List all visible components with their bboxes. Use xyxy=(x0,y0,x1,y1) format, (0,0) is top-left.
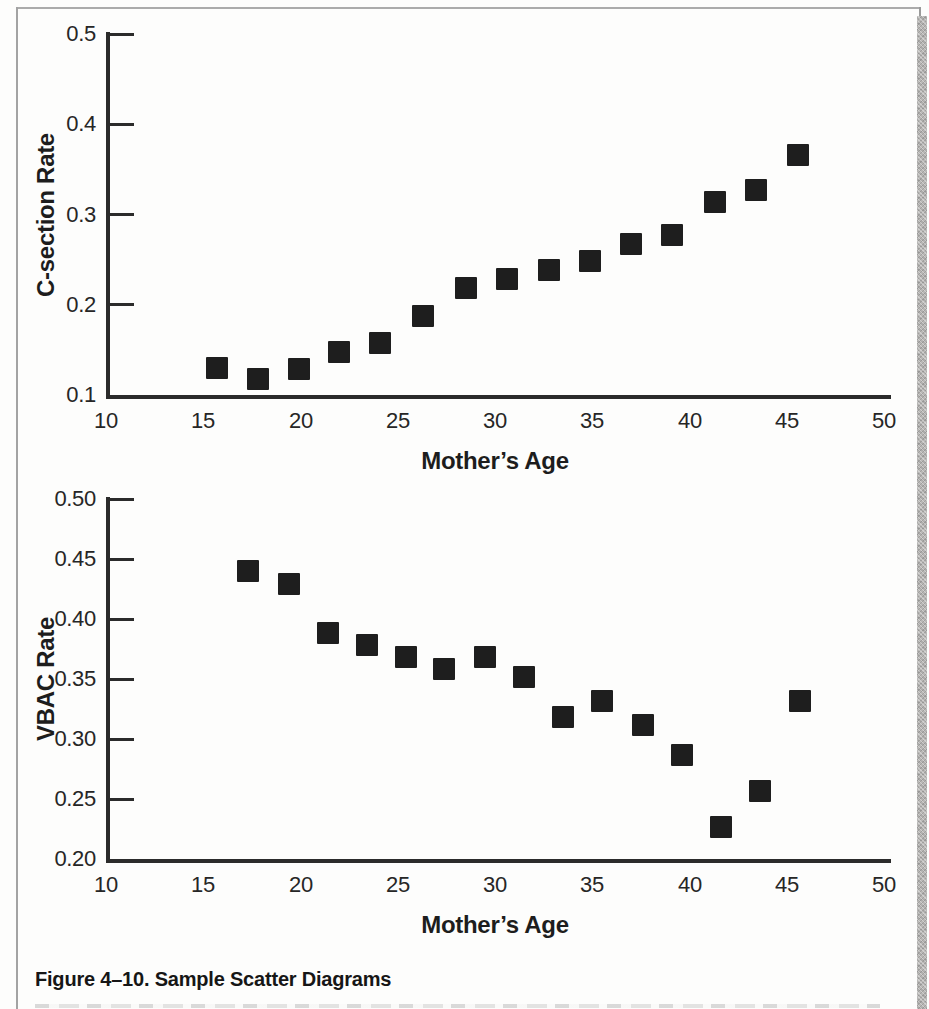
csection-chart-x-tick-label: 45 xyxy=(757,408,817,434)
vbac-chart-data-point xyxy=(395,646,417,668)
csection-chart-y-tick xyxy=(106,303,134,306)
vbac-chart-x-tick-label: 20 xyxy=(271,872,331,898)
vbac-chart-x-tick-label: 40 xyxy=(660,872,720,898)
csection-chart-x-tick-label: 20 xyxy=(271,408,331,434)
vbac-chart-y-tick xyxy=(106,738,134,741)
csection-chart-x-tick-label: 10 xyxy=(76,408,136,434)
vbac-chart-x-tick-label: 30 xyxy=(465,872,525,898)
csection-chart-x-axis xyxy=(106,395,891,399)
vbac-chart-y-tick xyxy=(106,558,134,561)
csection-chart-data-point xyxy=(661,224,683,246)
vbac-chart-data-point xyxy=(237,560,259,582)
vbac-chart-y-axis-title: VBAC Rate xyxy=(31,499,61,859)
csection-chart-data-point xyxy=(288,358,310,380)
vbac-chart-y-tick xyxy=(106,678,134,681)
csection-chart-data-point xyxy=(206,357,228,379)
csection-chart-y-tick xyxy=(106,123,134,126)
vbac-chart-x-axis xyxy=(106,859,891,863)
figure-scatter-diagrams: 0.50.40.30.20.1101520253035404550Mother’… xyxy=(0,0,929,1009)
vbac-chart-x-tick-label: 10 xyxy=(76,872,136,898)
vbac-chart-data-point xyxy=(591,690,613,712)
csection-chart-data-point xyxy=(247,368,269,390)
vbac-chart-data-point xyxy=(513,666,535,688)
vbac-chart-data-point xyxy=(278,573,300,595)
csection-chart-x-tick-label: 35 xyxy=(562,408,622,434)
csection-chart-x-tick-label: 50 xyxy=(854,408,914,434)
csection-chart-data-point xyxy=(328,341,350,363)
vbac-chart-data-point xyxy=(356,634,378,656)
csection-chart-data-point xyxy=(787,144,809,166)
csection-chart-data-point xyxy=(620,233,642,255)
vbac-chart-data-point xyxy=(749,780,771,802)
csection-chart-x-tick-label: 30 xyxy=(465,408,525,434)
csection-chart-data-point xyxy=(579,250,601,272)
vbac-chart-x-tick-label: 45 xyxy=(757,872,817,898)
csection-chart-y-tick xyxy=(106,213,134,216)
vbac-chart-y-tick xyxy=(106,498,134,501)
vbac-chart-y-tick xyxy=(106,618,134,621)
vbac-chart-x-tick-label: 15 xyxy=(173,872,233,898)
csection-chart-y-axis-title: C-section Rate xyxy=(31,35,61,395)
vbac-chart-data-point xyxy=(632,714,654,736)
csection-chart-data-point xyxy=(538,259,560,281)
vbac-chart-data-point xyxy=(552,706,574,728)
cutoff-text-remnant xyxy=(35,1004,880,1008)
csection-chart-x-axis-title: Mother’s Age xyxy=(345,446,645,476)
vbac-chart-data-point xyxy=(671,744,693,766)
vbac-chart-data-point xyxy=(433,658,455,680)
csection-chart-x-tick-label: 15 xyxy=(173,408,233,434)
vbac-chart-y-tick xyxy=(106,798,134,801)
csection-chart-data-point xyxy=(745,179,767,201)
csection-chart-data-point xyxy=(496,268,518,290)
vbac-chart-data-point xyxy=(474,646,496,668)
vbac-chart-x-axis-title: Mother’s Age xyxy=(345,910,645,940)
csection-chart-data-point xyxy=(455,277,477,299)
csection-chart-x-tick-label: 40 xyxy=(660,408,720,434)
vbac-chart-data-point xyxy=(710,816,732,838)
csection-chart-data-point xyxy=(412,305,434,327)
csection-chart-data-point xyxy=(704,191,726,213)
figure-caption: Figure 4–10. Sample Scatter Diagrams xyxy=(35,966,895,992)
vbac-chart-data-point xyxy=(317,622,339,644)
vbac-chart-data-point xyxy=(789,690,811,712)
csection-chart-y-tick xyxy=(106,33,134,36)
vbac-chart-x-tick-label: 35 xyxy=(562,872,622,898)
csection-chart-data-point xyxy=(369,332,391,354)
vbac-chart-x-tick-label: 25 xyxy=(368,872,428,898)
csection-chart-x-tick-label: 25 xyxy=(368,408,428,434)
vbac-chart-x-tick-label: 50 xyxy=(854,872,914,898)
